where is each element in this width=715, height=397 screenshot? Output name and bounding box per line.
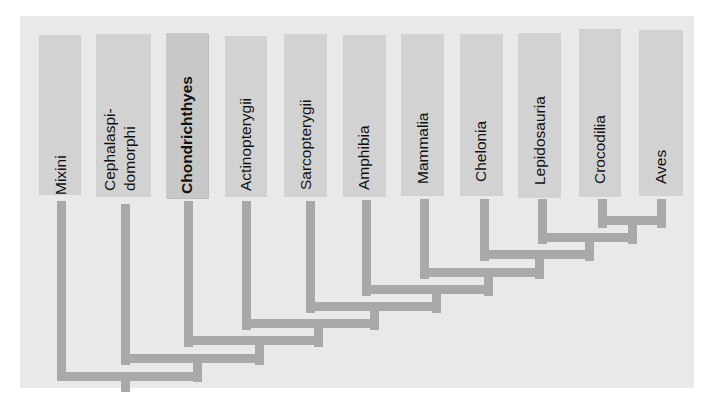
branch-actinopterygii <box>242 201 251 330</box>
taxon-label-line1: Cephalaspi- <box>102 108 118 191</box>
branch-sarcopterygii <box>306 201 315 313</box>
taxon-label: Chelonia <box>473 121 489 182</box>
taxon-crocodilia: Crocodilia <box>579 29 621 197</box>
taxon-amphibia: Amphibia <box>343 35 386 197</box>
taxon-sarcopterygii: Sarcopterygii <box>284 34 327 197</box>
taxon-aves: Aves <box>639 30 683 196</box>
taxon-chondrichthyes: Chondrichthyes <box>166 33 208 198</box>
taxon-cephalaspidomorphi: Cephalaspi- domorphi <box>96 34 151 197</box>
taxon-label: Sarcopterygii <box>298 100 314 190</box>
taxon-label: Lepidosauria <box>532 96 548 185</box>
taxon-label: Aves <box>653 150 669 184</box>
taxon-label: Mixini <box>53 155 69 195</box>
root-stem <box>121 372 130 392</box>
taxon-mixini: Mixini <box>39 35 81 195</box>
taxon-mammalia: Mammalia <box>401 34 444 196</box>
branch-mammalia <box>420 199 429 279</box>
branch-chondrichthyes <box>184 201 193 347</box>
branch-amphibia <box>362 200 371 296</box>
taxon-label: Chondrichthyes <box>179 76 195 194</box>
taxon-label: Amphibia <box>356 125 372 190</box>
node-osteichthyes <box>242 319 379 328</box>
taxon-label: Mammalia <box>415 113 431 184</box>
taxon-label-line2: domorphi <box>122 126 138 191</box>
taxon-lepidosauria: Lepidosauria <box>518 33 561 198</box>
branch-mixini <box>57 201 66 380</box>
taxon-chelonia: Chelonia <box>460 34 503 196</box>
node-amniota <box>420 268 544 277</box>
cladogram: Mixini Cephalaspi- domorphi Chondrichthy… <box>0 0 715 397</box>
taxon-label: Crocodilia <box>592 115 608 184</box>
node-gnathostomata <box>184 336 323 345</box>
branch-cephalaspidomorphi <box>121 204 130 365</box>
taxon-label: Actinopterygii <box>238 98 254 191</box>
node-tetrapoda <box>362 285 493 294</box>
taxon-actinopterygii: Actinopterygii <box>225 36 267 197</box>
